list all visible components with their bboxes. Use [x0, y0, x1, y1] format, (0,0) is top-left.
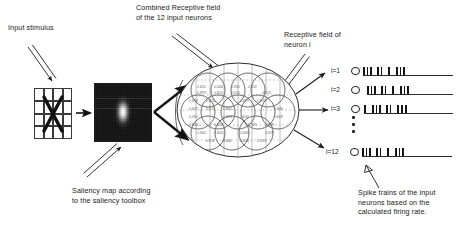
label-saliency-map-caption: Saliency map according to the saliency t… — [72, 186, 151, 205]
label-combined-receptive-field: Combined Receptive field of the 12 input… — [136, 3, 220, 22]
neuron-node-icon[interactable] — [351, 86, 360, 95]
diagram-canvas: 0.3415 0.2446 0.2941 0.3202 0.2879 0.461… — [0, 0, 461, 231]
arrow-combined-rf-to-ellipse — [172, 34, 218, 69]
spike-train-index-label: i=2 — [331, 86, 340, 93]
spike-train-row: i=1 — [331, 64, 457, 78]
arrow-saliency-caption-to-map — [84, 144, 122, 178]
neuron-node-icon[interactable] — [351, 67, 360, 76]
label-input-stimulus: Input stimulus — [8, 23, 54, 33]
neuron-node-icon[interactable] — [351, 105, 360, 114]
spike-train-row: i=2 — [331, 83, 457, 97]
spike-train-1 — [363, 64, 453, 78]
spike-train-3 — [364, 102, 454, 116]
arrow-rf-to-spike-1 — [296, 73, 325, 94]
arrow-rf-to-spike-12 — [294, 130, 324, 148]
arrow-input-stimulus-to-grid — [28, 45, 56, 81]
saliency-scanline — [95, 98, 151, 99]
spike-train-2 — [367, 83, 457, 97]
spike-train-ellipsis — [352, 116, 362, 142]
spike-train-row: i=12 — [326, 145, 456, 159]
spike-train-index-label: i=12 — [326, 148, 339, 155]
spike-train-index-label: i=1 — [331, 67, 340, 74]
saliency-map-image — [94, 83, 152, 142]
arrow-spike-caption-to-train — [365, 165, 380, 188]
spike-train-index-label: i=3 — [331, 105, 340, 112]
label-spike-trains-caption: Spike trains of the input neurons based … — [358, 188, 436, 217]
label-receptive-field-neuron-i: Receptive field of neuron i — [284, 30, 341, 49]
input-stimulus-grid — [34, 88, 72, 139]
saliency-noise-texture — [95, 84, 151, 141]
neuron-node-icon[interactable] — [350, 148, 359, 157]
saliency-scanline — [95, 108, 151, 109]
spike-train-row: i=3 — [331, 102, 457, 116]
stimulus-x-glyph — [34, 88, 72, 139]
spike-train-12 — [362, 145, 454, 159]
